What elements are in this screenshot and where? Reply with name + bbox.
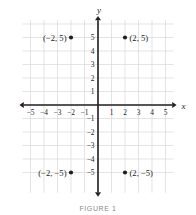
y-tick-label: 5	[91, 33, 95, 42]
y-tick-label: −2	[87, 128, 95, 137]
y-axis-label: y	[96, 5, 101, 15]
data-point	[69, 170, 73, 174]
figure-container: −5−4−3−2−11234554321−1−2−3−4−5 (−2, 5)(2…	[0, 0, 196, 215]
y-tick-label: −3	[87, 141, 95, 150]
data-point	[123, 170, 127, 174]
x-axis-label: x	[181, 101, 186, 111]
y-tick-label: 4	[91, 47, 95, 56]
x-tick-label: −2	[67, 108, 75, 117]
data-point-label: (2, −5)	[130, 168, 154, 178]
x-tick-label: −4	[40, 108, 48, 117]
y-axis-arrow-up	[95, 16, 101, 20]
y-tick-label: −1	[87, 114, 95, 123]
x-tick-label: 3	[137, 108, 141, 117]
x-axis-arrow-right	[172, 102, 176, 108]
y-tick-label: −5	[87, 168, 95, 177]
y-axis-arrow-down	[95, 192, 101, 196]
data-point-label: (−2, 5)	[43, 33, 67, 43]
y-tick-label: 2	[91, 74, 95, 83]
x-tick-label: −3	[54, 108, 62, 117]
x-tick-label: 5	[164, 108, 168, 117]
y-tick-label: −4	[87, 155, 95, 164]
x-axis-arrow-left	[19, 102, 23, 108]
x-tick-label: −5	[27, 108, 35, 117]
y-tick-label: 3	[91, 60, 95, 69]
data-point	[69, 35, 73, 39]
axis-names: xy	[96, 5, 186, 111]
x-tick-label: 1	[110, 108, 114, 117]
data-point-label: (2, 5)	[130, 33, 149, 43]
figure-caption: FIGURE 1	[0, 205, 196, 212]
data-point-label: (−2, −5)	[38, 168, 66, 178]
x-tick-label: 4	[150, 108, 154, 117]
x-tick-label: 2	[123, 108, 127, 117]
data-point	[123, 35, 127, 39]
coordinate-plane: −5−4−3−2−11234554321−1−2−3−4−5 (−2, 5)(2…	[0, 0, 196, 215]
y-tick-label: 1	[91, 87, 95, 96]
